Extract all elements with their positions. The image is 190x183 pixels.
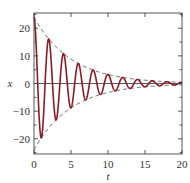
x-tick-label: 15 (140, 158, 152, 170)
upper-envelope (34, 17, 182, 82)
y-tick-label: 10 (19, 50, 31, 62)
oscillation-curve (34, 17, 182, 138)
y-tick-label: 20 (19, 22, 31, 34)
y-tick-labels: −20−1001020 (13, 22, 31, 145)
x-axis-label: t (106, 170, 110, 182)
y-tick-label: −10 (13, 105, 31, 117)
damped-oscillation-chart: 05101520 −20−1001020 t x (0, 0, 190, 183)
y-tick-label: 0 (25, 78, 31, 90)
x-tick-label: 20 (177, 158, 189, 170)
x-tick-label: 5 (68, 158, 74, 170)
x-tick-label: 0 (31, 158, 37, 170)
x-tick-label: 10 (103, 158, 115, 170)
y-axis-label: x (7, 77, 13, 89)
y-tick-label: −20 (13, 133, 31, 145)
x-tick-labels: 05101520 (31, 158, 188, 170)
